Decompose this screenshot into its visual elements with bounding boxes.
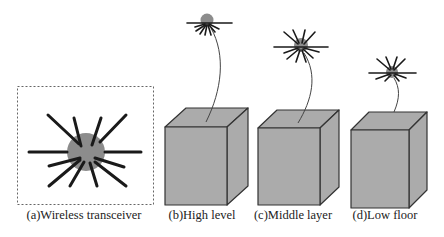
transceiver-body-icon — [294, 38, 308, 52]
antenna-spokes-icon — [187, 23, 232, 35]
panel-c-middle-layer — [258, 30, 339, 205]
caption-c: (c)Middle layer — [254, 208, 332, 223]
panel-d-low-floor — [351, 57, 427, 208]
panel-a-wireless-transceiver — [18, 87, 154, 205]
cable-line — [394, 78, 399, 112]
cube-building-icon — [258, 110, 339, 205]
caption-b: (b)High level — [169, 208, 236, 223]
diagram-canvas — [0, 0, 444, 237]
caption-a: (a)Wireless transceiver — [26, 208, 141, 223]
cube-building-icon — [351, 112, 427, 208]
panel-b-high-level — [165, 14, 248, 206]
cube-building-icon — [165, 108, 248, 205]
caption-d: (d)Low floor — [353, 208, 418, 223]
